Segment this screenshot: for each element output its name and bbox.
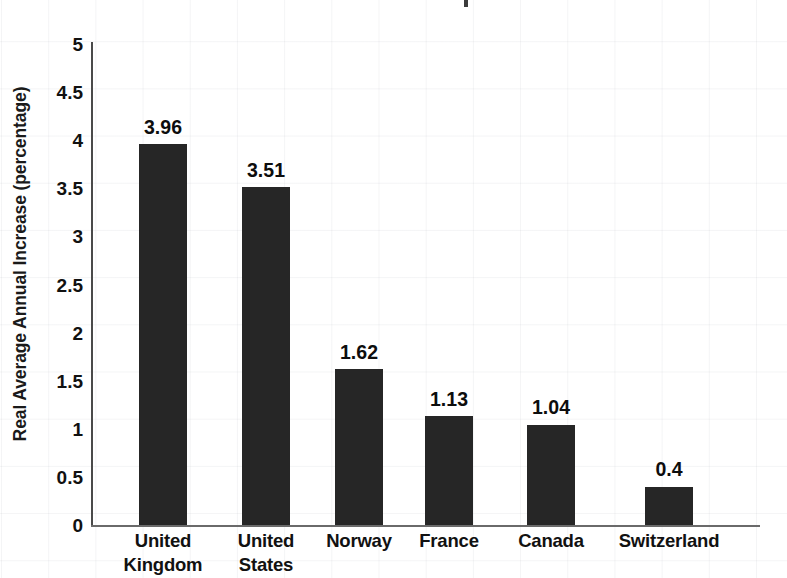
x-axis-category-labels: United KingdomUnited StatesNorwayFranceC… [93,529,760,578]
bar[interactable] [139,144,187,525]
bar-value-label: 1.13 [430,390,468,410]
x-tick-label: Canada [486,529,616,553]
bar-group[interactable]: 0.4 [645,44,693,525]
bar[interactable] [242,187,290,525]
bar-group[interactable]: 3.96 [139,44,187,525]
y-tick-label: 3 [0,227,91,246]
bar-chart-figure: Real Average Annual Increase (percentage… [0,0,787,578]
bar-value-label: 3.51 [247,161,285,181]
bar-group[interactable]: 1.04 [527,44,575,525]
y-tick-label: 1 [0,419,91,438]
y-tick-label: 0 [0,516,91,535]
scan-artifact [464,0,468,7]
plot-area: 3.963.511.621.131.040.4 [93,44,760,525]
y-tick-label: 2.5 [0,275,91,294]
y-axis-tick-labels: 54.543.532.521.510.50 [0,0,91,578]
bar-group[interactable]: 3.51 [242,44,290,525]
bar[interactable] [425,416,473,525]
y-tick-label: 2 [0,323,91,342]
x-axis-line [91,525,760,527]
bar-group[interactable]: 1.13 [425,44,473,525]
bar-value-label: 0.4 [655,460,682,480]
y-tick-label: 3.5 [0,179,91,198]
bar-value-label: 1.04 [532,398,570,418]
y-tick-label: 1.5 [0,371,91,390]
bar[interactable] [335,369,383,525]
bar-value-label: 3.96 [144,118,182,138]
x-tick-label: Switzerland [604,529,734,553]
bar-value-label: 1.62 [340,343,378,363]
y-tick-label: 0.5 [0,467,91,486]
bar[interactable] [527,425,575,525]
bar[interactable] [645,487,693,525]
y-tick-label: 4 [0,131,91,150]
bar-group[interactable]: 1.62 [335,44,383,525]
y-tick-label: 4.5 [0,83,91,102]
y-tick-label: 5 [0,35,91,54]
